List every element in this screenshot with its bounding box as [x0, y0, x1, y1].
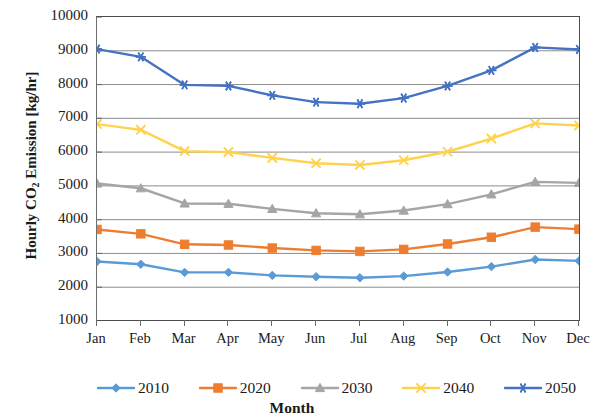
data-point-marker — [312, 273, 320, 281]
data-point-marker — [224, 268, 232, 276]
y-tick-label: 1000 — [26, 312, 88, 327]
series-line — [97, 123, 579, 165]
x-tick-label: Dec — [548, 329, 594, 347]
legend-key-2040 — [401, 380, 441, 396]
data-point-marker — [399, 94, 409, 103]
legend-item-2010[interactable]: 2010 — [96, 380, 169, 396]
data-point-marker — [400, 245, 408, 253]
data-point-marker — [223, 82, 233, 91]
legend-label-2040: 2040 — [443, 380, 474, 396]
data-point-marker — [531, 255, 539, 263]
x-tick-mark — [490, 320, 491, 326]
y-axis-tick-labels: 1000200030004000500060007000800090001000… — [26, 0, 88, 340]
data-point-marker — [311, 98, 321, 107]
legend-key-2050 — [503, 380, 543, 396]
series-line — [97, 260, 579, 278]
series-2040 — [97, 119, 579, 170]
series-2050 — [97, 43, 579, 108]
plot-canvas — [97, 17, 579, 321]
data-point-marker — [443, 268, 451, 276]
y-tick-label: 4000 — [26, 211, 88, 226]
legend-item-2020[interactable]: 2020 — [198, 380, 271, 396]
y-tick-label: 7000 — [26, 109, 88, 124]
data-point-marker — [355, 99, 365, 108]
data-point-marker — [97, 225, 101, 233]
legend-key-2010 — [96, 380, 136, 396]
y-tick-label: 6000 — [26, 143, 88, 158]
series-2030 — [97, 177, 579, 218]
data-point-marker — [268, 271, 276, 279]
legend-item-2050[interactable]: 2050 — [503, 380, 576, 396]
x-tick-mark — [315, 320, 316, 326]
data-point-marker — [400, 272, 408, 280]
series-2010 — [97, 255, 579, 282]
data-point-marker — [137, 230, 145, 238]
data-point-marker — [356, 247, 364, 255]
data-point-marker — [487, 233, 495, 241]
x-tick-mark — [227, 320, 228, 326]
data-point-marker — [180, 240, 188, 248]
data-point-marker — [443, 240, 451, 248]
legend-item-2030[interactable]: 2030 — [300, 380, 373, 396]
y-tick-label: 10000 — [26, 8, 88, 23]
legend-label-2010: 2010 — [138, 380, 169, 396]
data-point-marker — [518, 384, 528, 393]
data-point-marker — [487, 262, 495, 270]
data-point-marker — [575, 257, 579, 265]
legend-key-2030 — [300, 380, 340, 396]
x-tick-mark — [96, 320, 97, 326]
series-line — [97, 47, 579, 103]
data-point-marker — [97, 257, 101, 265]
x-axis-title: Month — [0, 399, 584, 417]
y-tick-label: 2000 — [26, 278, 88, 293]
legend-key-2020 — [198, 380, 238, 396]
x-tick-mark — [359, 320, 360, 326]
data-point-marker — [137, 260, 145, 268]
legend-item-2040[interactable]: 2040 — [401, 380, 474, 396]
legend-label-2050: 2050 — [545, 380, 576, 396]
x-tick-mark — [578, 320, 579, 326]
data-point-marker — [267, 91, 277, 100]
x-tick-mark — [184, 320, 185, 326]
x-axis-line — [96, 320, 579, 321]
data-point-marker — [443, 82, 453, 91]
data-point-marker — [214, 384, 222, 392]
y-tick-label: 5000 — [26, 177, 88, 192]
data-point-marker — [531, 223, 539, 231]
series-line — [97, 227, 579, 251]
data-point-marker — [575, 225, 579, 233]
legend-label-2020: 2020 — [240, 380, 271, 396]
x-tick-mark — [447, 320, 448, 326]
data-point-marker — [224, 241, 232, 249]
y-tick-label: 3000 — [26, 244, 88, 259]
data-point-marker — [312, 246, 320, 254]
x-tick-mark — [140, 320, 141, 326]
series-line — [97, 182, 579, 214]
plot-area — [96, 16, 580, 321]
data-point-marker — [180, 268, 188, 276]
data-point-marker — [97, 45, 102, 54]
data-point-marker — [574, 45, 579, 54]
chart-legend: 20102020203020402050 — [96, 376, 576, 400]
x-tick-mark — [403, 320, 404, 326]
x-axis-tick-labels: JanFebMarAprMayJunJulAugSepOctNovDec — [96, 329, 579, 351]
x-tick-mark — [534, 320, 535, 326]
data-point-marker — [268, 244, 276, 252]
x-tick-mark — [271, 320, 272, 326]
legend-label-2030: 2030 — [342, 380, 373, 396]
series-2020 — [97, 223, 579, 256]
data-point-marker — [112, 384, 120, 392]
y-tick-label: 8000 — [26, 76, 88, 91]
y-tick-label: 9000 — [26, 42, 88, 57]
data-point-marker — [356, 274, 364, 282]
